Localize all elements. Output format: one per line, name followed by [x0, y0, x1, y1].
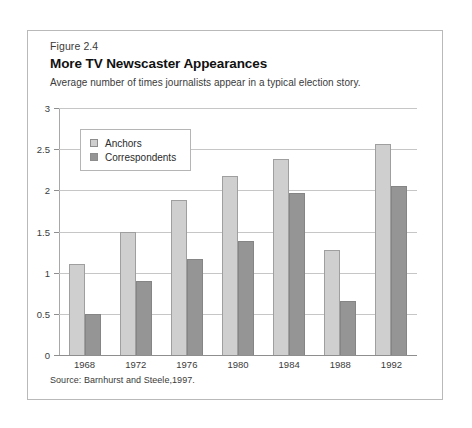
- y-axis-label-0.5: 0.5: [37, 308, 50, 319]
- figure-header: Figure 2.4 More TV Newscaster Appearance…: [50, 39, 430, 90]
- x-axis-label-1992: 1992: [366, 359, 417, 370]
- x-axis-label-1984: 1984: [264, 359, 315, 370]
- bar-1992-correspondents: [391, 186, 407, 355]
- figure-title: More TV Newscaster Appearances: [50, 55, 430, 73]
- figure-number: Figure 2.4: [50, 39, 430, 54]
- gridline-0: 0: [59, 355, 417, 356]
- y-axis-label-2: 2: [45, 185, 50, 196]
- bar-1972-anchors: [120, 232, 136, 356]
- figure-frame: Figure 2.4 More TV Newscaster Appearance…: [27, 30, 443, 400]
- bar-1976-correspondents: [187, 259, 203, 355]
- x-axis-label-1980: 1980: [212, 359, 263, 370]
- bar-1992-anchors: [375, 144, 391, 355]
- y-tickmark-0: [54, 355, 59, 356]
- bar-group-1992: [366, 108, 417, 355]
- bar-1968-anchors: [69, 264, 85, 355]
- source-note: Source: Barnhurst and Steele,1997.: [50, 375, 195, 385]
- chart-legend: AnchorsCorrespondents: [80, 129, 191, 171]
- bar-group-1980: [212, 108, 263, 355]
- x-axis-label-1976: 1976: [161, 359, 212, 370]
- bar-1988-correspondents: [340, 301, 356, 355]
- x-axis-label-1988: 1988: [315, 359, 366, 370]
- bar-group-1988: [315, 108, 366, 355]
- bar-1980-anchors: [222, 176, 238, 355]
- x-axis-labels: 1968197219761980198419881992: [59, 359, 417, 370]
- bar-1976-anchors: [171, 200, 187, 355]
- legend-swatch-correspondents-icon: [90, 153, 98, 161]
- bar-group-1984: [264, 108, 315, 355]
- y-axis-label-2.5: 2.5: [37, 144, 50, 155]
- y-axis-label-3: 3: [45, 103, 50, 114]
- bar-1984-anchors: [273, 159, 289, 355]
- legend-item-anchors: Anchors: [90, 136, 176, 150]
- y-axis-label-0: 0: [45, 350, 50, 361]
- figure-subtitle: Average number of times journalists appe…: [50, 75, 430, 90]
- bar-1972-correspondents: [136, 281, 152, 355]
- legend-label-anchors: Anchors: [105, 138, 142, 149]
- x-axis-label-1972: 1972: [110, 359, 161, 370]
- legend-swatch-anchors-icon: [90, 139, 98, 147]
- bar-1980-correspondents: [238, 241, 254, 355]
- x-axis-label-1968: 1968: [59, 359, 110, 370]
- bar-1988-anchors: [324, 250, 340, 355]
- legend-item-correspondents: Correspondents: [90, 150, 176, 164]
- y-axis-label-1: 1: [45, 267, 50, 278]
- legend-label-correspondents: Correspondents: [105, 152, 176, 163]
- bar-1968-correspondents: [85, 314, 101, 355]
- y-axis-label-1.5: 1.5: [37, 226, 50, 237]
- bar-1984-correspondents: [289, 193, 305, 355]
